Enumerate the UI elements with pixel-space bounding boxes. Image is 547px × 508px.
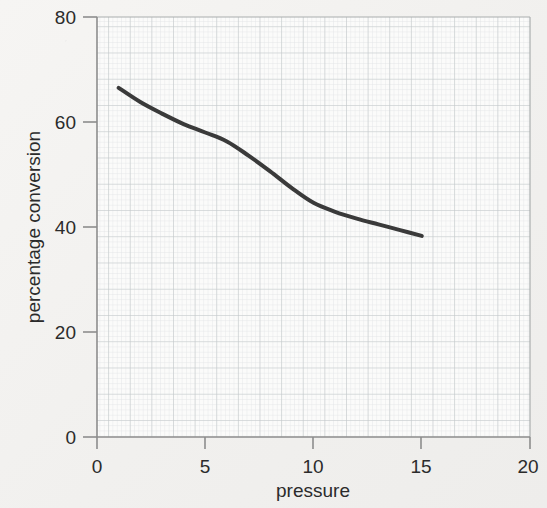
y-tick-label-60: 60 xyxy=(55,112,76,133)
x-tick-labels: 0 5 10 15 20 xyxy=(92,456,539,477)
x-tick-label-15: 15 xyxy=(410,456,431,477)
y-axis-ticks xyxy=(83,17,97,437)
y-tick-label-80: 80 xyxy=(55,7,76,28)
x-axis-title: pressure xyxy=(276,480,350,501)
x-tick-label-10: 10 xyxy=(302,456,323,477)
x-tick-label-0: 0 xyxy=(92,456,103,477)
y-tick-label-40: 40 xyxy=(55,217,76,238)
x-tick-label-20: 20 xyxy=(517,456,538,477)
chart-figure: 80 60 40 20 0 0 5 10 15 20 pressure perc… xyxy=(0,0,547,508)
y-tick-label-20: 20 xyxy=(55,322,76,343)
y-tick-labels: 80 60 40 20 0 xyxy=(55,7,76,448)
plot-grid xyxy=(97,17,530,437)
line-chart-svg: 80 60 40 20 0 0 5 10 15 20 pressure perc… xyxy=(0,0,547,508)
y-tick-label-0: 0 xyxy=(65,427,76,448)
x-axis-ticks xyxy=(97,437,530,449)
y-axis-title: percentage conversion xyxy=(23,131,44,323)
x-tick-label-5: 5 xyxy=(200,456,211,477)
